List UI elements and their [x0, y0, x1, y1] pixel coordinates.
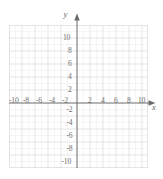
x-tick-label: -6	[36, 97, 42, 105]
y-tick-label: 4	[68, 73, 72, 81]
x-tick-label: 2	[88, 97, 92, 105]
x-tick-label: 6	[114, 97, 118, 105]
coordinate-plane-figure: -10 -8 -6 -4 -2 2 4 6 8 10 10 8 6 4 2 -2…	[0, 0, 163, 179]
y-tick-label: -10	[62, 158, 72, 166]
y-tick-label: 8	[68, 47, 72, 55]
y-tick-label: -4	[67, 119, 73, 127]
coordinate-grid-svg	[0, 0, 163, 179]
y-tick-label: -8	[67, 145, 73, 153]
y-axis-arrowhead	[74, 14, 80, 21]
x-tick-label: -2	[62, 97, 68, 105]
y-tick-label: 6	[68, 60, 72, 68]
x-tick-label: 4	[101, 97, 105, 105]
y-tick-label: 10	[63, 34, 70, 42]
x-tick-label: 8	[127, 97, 131, 105]
x-tick-label: -10	[9, 97, 19, 105]
x-tick-label: 10	[138, 97, 145, 105]
x-tick-label: -4	[49, 97, 55, 105]
y-tick-label: 2	[68, 86, 72, 94]
y-tick-label: -6	[67, 132, 73, 140]
x-axis-label: x	[152, 104, 156, 112]
axis-lines	[9, 16, 153, 168]
x-tick-label: -8	[23, 97, 29, 105]
y-axis-label: y	[64, 11, 68, 19]
y-tick-label: -2	[67, 106, 73, 114]
